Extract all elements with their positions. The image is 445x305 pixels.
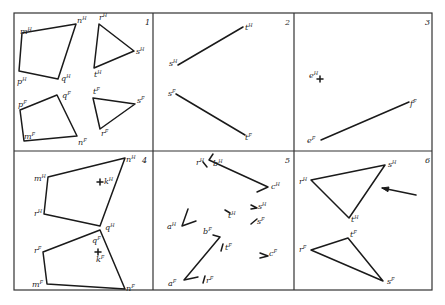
vertex-label: fF (409, 98, 417, 108)
projection-superscript: H (96, 69, 102, 75)
tri-frontal (311, 238, 383, 281)
vertex-label: sF (137, 95, 145, 105)
vertex-label: qF (92, 235, 101, 245)
vertex-label: tH (228, 210, 236, 220)
vertex-label: aF (168, 278, 177, 288)
s-h-mark (251, 205, 257, 209)
point-k-horizontal-cross-icon (97, 179, 103, 185)
projection-superscript: F (140, 95, 145, 101)
projection-superscript: F (104, 128, 109, 134)
r-h-mark (203, 162, 207, 167)
line-st-horizontal (178, 27, 243, 65)
vertex-label: sH (258, 201, 267, 211)
c-f-mark (260, 253, 268, 258)
projection-superscript: F (172, 278, 177, 284)
ab-frontal (184, 235, 220, 280)
vertex-label: eF (307, 135, 316, 145)
tri-horizontal (94, 24, 134, 68)
vertex-label: cF (269, 248, 277, 258)
quad-horizontal (44, 158, 125, 226)
projection-superscript: F (272, 248, 277, 254)
projection-superscript: F (66, 90, 71, 96)
vertex-label: mH (20, 26, 33, 36)
projection-superscript: F (311, 135, 316, 141)
vertex-label: rF (101, 128, 109, 138)
panel-number-4: 4 (141, 156, 147, 165)
vertex-label: nF (126, 283, 135, 293)
tri-frontal (93, 98, 135, 129)
vertex-label: tH (94, 69, 102, 79)
panel-number-5: 5 (285, 156, 290, 165)
vertex-label: nF (78, 137, 87, 147)
vertex-label: rF (34, 245, 42, 255)
projection-superscript: F (37, 245, 42, 251)
projection-superscript: F (171, 88, 176, 94)
projection-superscript: H (302, 176, 308, 182)
vertex-label: sF (387, 276, 395, 286)
vertex-label: qH (61, 73, 71, 83)
projection-superscript: H (108, 176, 114, 182)
projection-superscript: H (172, 58, 178, 64)
a-horizontal-tick (182, 209, 196, 226)
projection-superscript: F (82, 137, 87, 143)
projection-superscript: H (171, 221, 177, 227)
vertex-label: rF (299, 244, 307, 254)
panel-1: mHnHqHpHrHsHtHpFqFnFmFtFsFrF (17, 12, 145, 147)
vertex-label: tH (351, 214, 359, 224)
vertex-label: tF (350, 229, 357, 239)
vertex-label: sH (169, 58, 178, 68)
panel-numbers: 1 2 3 4 5 6 (141, 18, 430, 165)
panel-3: eFfFeH (307, 70, 417, 145)
projection-superscript: H (130, 154, 136, 160)
r-f-mark (203, 276, 205, 283)
panel-number-3: 3 (425, 18, 430, 27)
vertex-label: nH (126, 154, 136, 164)
vertex-label: cH (271, 181, 280, 191)
projection-superscript: F (39, 279, 44, 285)
vertex-label: sF (168, 88, 176, 98)
t-f-mark (221, 244, 223, 251)
projection-superscript: H (37, 208, 43, 214)
line-st-frontal (176, 94, 245, 135)
vertex-label: rF (206, 275, 214, 285)
panel-2: sHtHsFtF (168, 22, 253, 142)
vertex-label: mF (32, 279, 44, 289)
projection-superscript: H (109, 222, 115, 228)
drawing-sheet: mHnHqHpHrHsHtHpFqFnFmFtFsFrFsHtHsFtFeFfF… (0, 0, 445, 305)
projection-superscript: F (209, 275, 214, 281)
vertex-label: sH (388, 159, 397, 169)
vertex-label: tF (225, 242, 232, 252)
projection-superscript: F (227, 242, 232, 248)
line-ef-frontal (321, 102, 409, 140)
projection-superscript: H (391, 159, 397, 165)
projection-superscript: H (81, 15, 87, 21)
projection-superscript: F (302, 244, 307, 250)
projection-superscript: F (412, 98, 417, 104)
vertex-label: sF (257, 216, 265, 226)
vertex-label: qF (62, 90, 71, 100)
projection-superscript: F (96, 235, 101, 241)
projection-superscript: H (313, 70, 319, 76)
vertex-label: qH (105, 222, 115, 232)
panel-content: mHnHqHpHrHsHtHpFqFnFmFtFsFrFsHtHsFtFeFfF… (17, 12, 417, 293)
projection-superscript: F (22, 99, 27, 105)
descriptive-geometry-figure: mHnHqHpHrHsHtHpFqFnFmFtFsFrFsHtHsFtFeFfF… (0, 0, 445, 305)
projection-superscript: F (31, 131, 36, 137)
projection-superscript: H (21, 76, 27, 82)
projection-superscript: H (65, 73, 71, 79)
vertex-label: rH (299, 176, 308, 186)
projection-superscript: F (247, 132, 252, 138)
vertex-label: tF (245, 132, 252, 142)
projection-superscript: H (102, 12, 108, 18)
panel-number-1: 1 (145, 18, 150, 27)
projection-superscript: H (353, 214, 359, 220)
quad-frontal (43, 230, 125, 289)
projection-superscript: H (230, 210, 236, 216)
vertex-label: mH (34, 173, 47, 183)
projection-superscript: F (260, 216, 265, 222)
vertex-label: pH (17, 76, 27, 86)
panel-number-6: 6 (425, 156, 430, 165)
arrowhead-icon (382, 187, 389, 192)
projection-superscript: H (261, 201, 267, 207)
panel-number-2: 2 (284, 18, 290, 27)
